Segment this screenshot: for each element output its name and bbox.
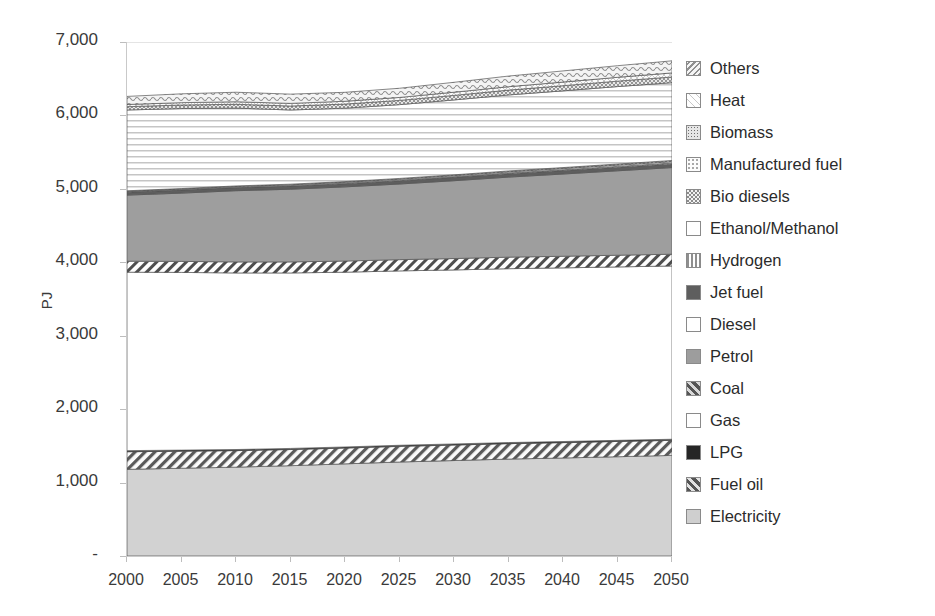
legend-item-bio-diesels[interactable]: Bio diesels — [686, 180, 931, 212]
x-tick-label: 2040 — [532, 571, 592, 589]
legend-item-heat[interactable]: Heat — [686, 84, 931, 116]
x-tick-mark — [453, 557, 454, 562]
x-tick-mark — [399, 557, 400, 562]
legend-item-ethanol-methanol[interactable]: Ethanol/Methanol — [686, 212, 931, 244]
legend-swatch-diagonal-icon — [686, 477, 701, 492]
x-tick-mark — [508, 557, 509, 562]
x-tick-label: 2035 — [478, 571, 538, 589]
y-tick-label: 7,000 — [28, 31, 98, 48]
x-tick-mark — [562, 557, 563, 562]
y-axis-ticks: 7,0006,0005,0004,0003,0002,0001,000- — [20, 0, 98, 616]
x-tick-label: 2010 — [205, 571, 265, 589]
legend-item-manufactured-fuel[interactable]: Manufactured fuel — [686, 148, 931, 180]
legend-label: Bio diesels — [710, 187, 790, 206]
legend-swatch-solid-icon — [686, 221, 701, 236]
legend-swatch-vertical-icon — [686, 253, 701, 268]
legend-item-hydrogen[interactable]: Hydrogen — [686, 244, 931, 276]
legend-label: Hydrogen — [710, 251, 782, 270]
x-tick-mark — [181, 557, 182, 562]
x-tick-label: 2020 — [314, 571, 374, 589]
y-tick-label: 2,000 — [28, 398, 98, 415]
x-tick-mark — [126, 557, 127, 562]
x-tick-mark — [671, 557, 672, 562]
legend-label: Manufactured fuel — [710, 155, 842, 174]
y-tick-label: - — [28, 545, 98, 562]
legend-swatch-solid-icon — [686, 285, 701, 300]
y-tick-label: 3,000 — [28, 325, 98, 342]
legend-label: Others — [710, 59, 760, 78]
legend-label: Biomass — [710, 123, 773, 142]
legend-swatch-solid-icon — [686, 445, 701, 460]
legend-swatch-solid-icon — [686, 413, 701, 428]
x-tick-label: 2025 — [369, 571, 429, 589]
legend-label: LPG — [710, 443, 743, 462]
x-axis-ticks: 2000200520102015202020252030203520402045… — [126, 557, 671, 597]
legend-label: Electricity — [710, 507, 781, 526]
legend-item-electricity[interactable]: Electricity — [686, 500, 931, 532]
x-tick-label: 2015 — [260, 571, 320, 589]
plot-area — [126, 42, 672, 557]
stacked-area-chart: PJ 7,0006,0005,0004,0003,0002,0001,000- — [0, 0, 935, 616]
legend-item-coal[interactable]: Coal — [686, 372, 931, 404]
legend-swatch-cross-light-icon — [686, 93, 701, 108]
legend-item-lpg[interactable]: LPG — [686, 436, 931, 468]
legend-label: Jet fuel — [710, 283, 763, 302]
x-tick-mark — [235, 557, 236, 562]
legend-item-gas[interactable]: Gas — [686, 404, 931, 436]
legend-label: Ethanol/Methanol — [710, 219, 838, 238]
legend-item-jet-fuel[interactable]: Jet fuel — [686, 276, 931, 308]
y-tick-label: 4,000 — [28, 251, 98, 268]
legend-swatch-solid-icon — [686, 509, 701, 524]
x-tick-label: 2000 — [96, 571, 156, 589]
legend-label: Petrol — [710, 347, 753, 366]
legend-label: Diesel — [710, 315, 756, 334]
legend-label: Gas — [710, 411, 740, 430]
legend-swatch-diagonal-icon — [686, 381, 701, 396]
area-series-gas — [127, 266, 672, 451]
area-series-group — [127, 42, 672, 556]
legend-swatch-dots-sparse-icon — [686, 157, 701, 172]
area-series-electricity — [127, 455, 672, 556]
x-tick-label: 2005 — [151, 571, 211, 589]
legend-item-fuel-oil[interactable]: Fuel oil — [686, 468, 931, 500]
legend-item-diesel[interactable]: Diesel — [686, 308, 931, 340]
legend-swatch-wave-icon — [686, 61, 701, 76]
x-tick-label: 2050 — [641, 571, 701, 589]
x-tick-mark — [290, 557, 291, 562]
x-tick-label: 2045 — [587, 571, 647, 589]
legend-swatch-checker-icon — [686, 189, 701, 204]
legend-label: Fuel oil — [710, 475, 763, 494]
legend-label: Heat — [710, 91, 745, 110]
legend-swatch-solid-icon — [686, 317, 701, 332]
x-tick-label: 2030 — [423, 571, 483, 589]
legend-item-biomass[interactable]: Biomass — [686, 116, 931, 148]
legend-swatch-solid-icon — [686, 349, 701, 364]
y-tick-label: 6,000 — [28, 104, 98, 121]
y-tick-label: 1,000 — [28, 472, 98, 489]
legend-swatch-dots-dense-icon — [686, 125, 701, 140]
x-tick-mark — [344, 557, 345, 562]
legend-label: Coal — [710, 379, 744, 398]
legend-item-others[interactable]: Others — [686, 52, 931, 84]
y-tick-label: 5,000 — [28, 178, 98, 195]
chart-legend: OthersHeatBiomassManufactured fuelBio di… — [686, 52, 931, 532]
legend-item-petrol[interactable]: Petrol — [686, 340, 931, 372]
x-tick-mark — [617, 557, 618, 562]
